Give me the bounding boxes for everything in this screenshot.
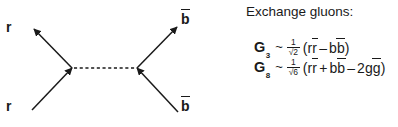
g8-term-bbar: b [337, 61, 345, 75]
exchange-gluons-panel: Exchange gluons: G3 ~ 1 √2 (rr–bb) G8 ~ … [246, 0, 398, 127]
g8-fraction-denominator: √6 [289, 68, 298, 77]
leg-label-text: b [181, 12, 190, 26]
leg-line-lower-left [32, 68, 72, 110]
g3-operator-minus: – [317, 40, 329, 56]
leg-label-r-lower-left: r [6, 99, 12, 113]
g8-close-paren: ) [381, 60, 386, 76]
g8-term-rbar: r [312, 61, 317, 75]
feynman-diagram-figure: r r b b Exchange gluons: G3 ~ 1 √2 (rr–b… [0, 0, 398, 127]
g8-term-b: b [329, 60, 337, 76]
g3-relation-tilde: ~ [275, 40, 283, 53]
g8-subscript: 8 [266, 72, 270, 80]
g3-fraction-denominator: √2 [289, 48, 298, 57]
leg-label-text: r [6, 19, 12, 35]
leg-label-bbar-upper-right: b [181, 12, 190, 26]
leg-label-r-upper-left: r [6, 20, 12, 34]
g3-expression: (rr–bb) [303, 41, 350, 55]
g3-symbol: G [254, 40, 265, 55]
leg-label-bbar-lower-right: b [181, 99, 190, 113]
g8-relation-tilde: ~ [275, 60, 283, 73]
leg-label-text: r [6, 98, 12, 114]
leg-label-text: b [181, 99, 190, 113]
exchange-gluons-heading: Exchange gluons: [246, 4, 353, 19]
g8-symbol: G [254, 60, 265, 75]
diagram-canvas [0, 0, 210, 127]
leg-line-lower-right [137, 68, 178, 112]
g3-fraction-numerator: 1 [291, 38, 296, 47]
formula-g3: G3 ~ 1 √2 (rr–bb) [254, 38, 350, 57]
g8-operator-plus: + [317, 60, 329, 76]
g8-term-2g: 2g [357, 60, 373, 76]
g3-term-rbar: r [312, 41, 317, 55]
g8-expression: (rr+bb–2gg) [303, 61, 386, 75]
leg-line-upper-right [137, 27, 177, 68]
gluon-exchange-feynman-diagram: r r b b [0, 0, 210, 127]
g8-normalization-fraction: 1 √6 [287, 58, 300, 77]
formula-g8: G8 ~ 1 √6 (rr+bb–2gg) [254, 58, 386, 77]
g8-fraction-numerator: 1 [291, 58, 296, 67]
leg-line-upper-left [34, 29, 72, 68]
g3-normalization-fraction: 1 √2 [287, 38, 300, 57]
g8-term-gbar: g [373, 61, 381, 75]
g8-operator-minus: – [345, 60, 357, 76]
g3-term-b: b [329, 40, 337, 56]
g3-close-paren: ) [345, 40, 350, 56]
g3-term-bbar: b [337, 41, 345, 55]
